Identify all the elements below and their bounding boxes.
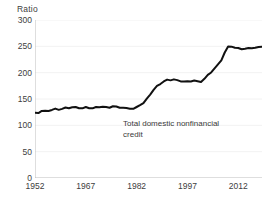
y-tick-label-150: 150 xyxy=(8,94,32,104)
x-axis-tick-labels: 19521967198219972012 xyxy=(35,179,262,195)
x-tick-label-1952: 1952 xyxy=(26,181,45,191)
y-axis-tick-labels: 050100150200250300 xyxy=(5,20,32,178)
y-tick-label-200: 200 xyxy=(8,68,32,78)
series-line-total-domestic-nonfinancial-credit xyxy=(35,46,262,113)
x-tick-label-1967: 1967 xyxy=(76,181,95,191)
x-tick-label-2012: 2012 xyxy=(229,181,248,191)
x-tick-label-1982: 1982 xyxy=(127,181,146,191)
clipped-footnote-text xyxy=(2,199,142,204)
line-chart-svg xyxy=(35,20,262,178)
annotation-line-1: Total domestic nonfinancial xyxy=(123,119,219,130)
y-tick-label-250: 250 xyxy=(8,41,32,51)
series-annotation-label: Total domestic nonfinancial credit xyxy=(123,119,219,140)
annotation-line-2: credit xyxy=(123,130,219,141)
y-axis-unit-label: Ratio xyxy=(17,4,38,14)
y-tick-label-50: 50 xyxy=(8,147,32,157)
y-tick-label-300: 300 xyxy=(8,15,32,25)
chart-figure: Ratio 050100150200250300 195219671982199… xyxy=(0,0,270,204)
y-tick-label-100: 100 xyxy=(8,120,32,130)
plot-area xyxy=(35,20,262,178)
x-tick-label-1997: 1997 xyxy=(178,181,197,191)
